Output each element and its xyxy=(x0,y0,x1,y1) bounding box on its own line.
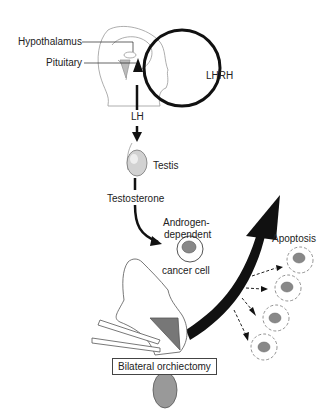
procedure-label: Bilateral orchiectomy xyxy=(112,358,217,375)
hypothalamus-label: Hypothalamus xyxy=(18,37,82,47)
testis-label: Testis xyxy=(153,161,179,171)
lhrh-loop xyxy=(144,30,220,106)
cancer-cell-label: cancer cell xyxy=(162,266,210,276)
androgen-label: Androgen- xyxy=(163,218,210,228)
testis-icon xyxy=(127,143,147,176)
lh-label: LH xyxy=(131,112,144,122)
testosterone-arrowhead-icon xyxy=(150,236,162,246)
testosterone-label: Testosterone xyxy=(107,194,164,204)
apoptosis-label: Apoptosis xyxy=(272,234,316,244)
lhrh-label: LHRH xyxy=(206,71,233,81)
orchiectomy-illustration-icon xyxy=(92,259,187,408)
dependent-label: dependent xyxy=(164,230,211,240)
lh-arrowhead-icon xyxy=(132,132,142,142)
lhrh-arrowhead-icon xyxy=(133,58,143,72)
pituitary-label: Pituitary xyxy=(46,58,82,68)
